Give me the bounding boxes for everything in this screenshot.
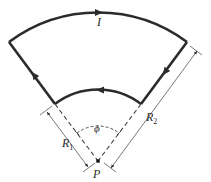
r1-subscript: 1 (69, 143, 73, 152)
sector-loop-diagram: I ϕ R1 R2 P (0, 0, 211, 182)
angle-label: ϕ (94, 122, 100, 134)
inner-arc (55, 89, 141, 104)
arrow-left-icon (96, 87, 104, 94)
r1-label: R1 (61, 136, 73, 152)
current-label: I (96, 15, 102, 29)
r2-dimension (104, 46, 202, 172)
r2-subscript: 2 (153, 117, 157, 126)
point-p-marker (96, 159, 99, 162)
r2-label: R2 (145, 110, 157, 126)
point-p-label: P (92, 167, 101, 181)
